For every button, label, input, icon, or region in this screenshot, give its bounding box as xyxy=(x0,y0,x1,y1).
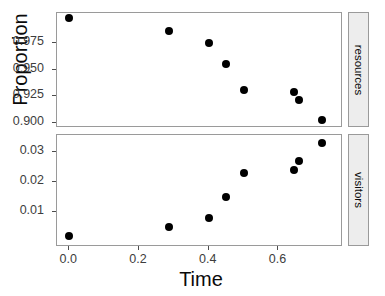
y-tick-label: 0.975 xyxy=(13,34,44,48)
data-point xyxy=(165,223,173,231)
data-point xyxy=(318,116,326,124)
panel-resources xyxy=(56,12,342,127)
data-point xyxy=(205,39,213,47)
data-point xyxy=(295,96,303,104)
y-tick-label: 0.925 xyxy=(13,87,44,101)
x-tick-label: 0.4 xyxy=(188,252,228,266)
strip-label-resources: resources xyxy=(353,44,365,95)
data-point xyxy=(290,166,298,174)
chart-root: Proportion Time 0.9000.9250.9500.9750.01… xyxy=(0,0,385,296)
y-tick-mark xyxy=(52,42,56,43)
x-tick-label: 0.2 xyxy=(118,252,158,266)
data-point xyxy=(205,214,213,222)
strip-visitors: visitors xyxy=(348,134,369,246)
data-point xyxy=(290,88,298,96)
y-tick-mark xyxy=(52,95,56,96)
x-tick-mark xyxy=(277,246,278,250)
x-tick-label: 0.0 xyxy=(48,252,88,266)
y-tick-mark xyxy=(52,151,56,152)
y-tick-label: 0.03 xyxy=(20,143,44,157)
y-axis-labels: 0.9000.9250.9500.9750.010.020.03 xyxy=(0,0,52,296)
x-axis-title: Time xyxy=(86,268,316,291)
data-point xyxy=(65,14,73,22)
strip-resources: resources xyxy=(348,12,369,127)
y-tick-label: 0.950 xyxy=(13,61,44,75)
y-tick-mark xyxy=(52,122,56,123)
data-point xyxy=(240,86,248,94)
x-tick-label: 0.6 xyxy=(257,252,297,266)
data-point xyxy=(295,157,303,165)
x-tick-mark xyxy=(68,246,69,250)
y-tick-label: 0.02 xyxy=(20,173,44,187)
data-point xyxy=(222,193,230,201)
data-point xyxy=(318,139,326,147)
data-point xyxy=(240,169,248,177)
x-tick-mark xyxy=(138,246,139,250)
panel-visitors xyxy=(56,134,342,246)
x-tick-mark xyxy=(208,246,209,250)
y-tick-mark xyxy=(52,181,56,182)
strip-label-visitors: visitors xyxy=(353,172,365,208)
y-tick-mark xyxy=(52,69,56,70)
data-point xyxy=(65,232,73,240)
data-point xyxy=(165,27,173,35)
y-tick-label: 0.900 xyxy=(13,114,44,128)
data-point xyxy=(222,60,230,68)
y-tick-mark xyxy=(52,211,56,212)
y-tick-label: 0.01 xyxy=(20,203,44,217)
